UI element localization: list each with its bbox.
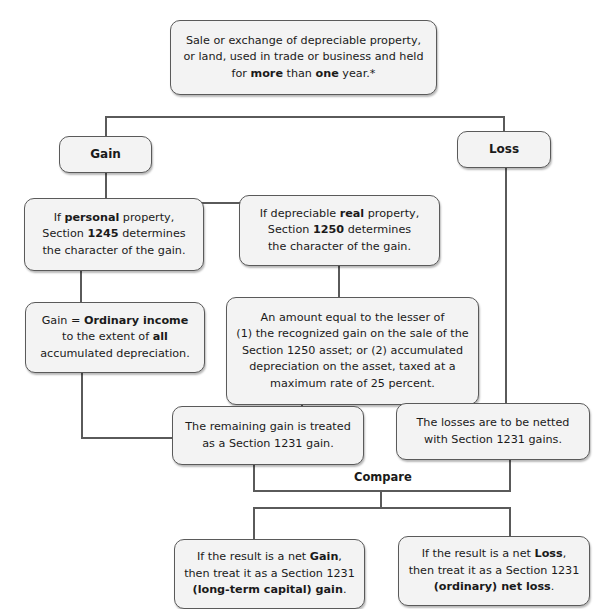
losses-netted-box: The losses are to be netted with Section… [396, 403, 590, 460]
connector-to-loss [503, 116, 505, 132]
gain-label: Gain [90, 146, 121, 163]
title-line-3-pre: for [232, 67, 251, 80]
losses-l2: with Section 1231 gains. [424, 433, 562, 446]
netgain-l2: then treat it as a Section 1231 [184, 567, 355, 580]
title-box: Sale or exchange of depreciable property… [170, 20, 437, 95]
netgain-l3-bold: (long-term capital) gain [193, 583, 343, 596]
title-more: more [251, 67, 283, 80]
title-one: one [316, 67, 339, 80]
connector-ordinary-to-remaining [81, 437, 173, 439]
remaining-l2: as a Section 1231 gain. [202, 437, 334, 450]
title-line-1: Sale or exchange of depreciable property… [186, 34, 421, 47]
real-l1-bold: real [340, 207, 365, 220]
netloss-l1-bold: Loss [535, 547, 563, 560]
loss-box: Loss [457, 131, 551, 168]
remaining-l1: The remaining gain is treated [185, 420, 350, 433]
personal-l2-bold: 1245 [87, 227, 118, 240]
personal-l3: the character of the gain. [42, 244, 185, 257]
ordinary-l3: accumulated depreciation. [40, 347, 190, 360]
netloss-l2: then treat it as a Section 1231 [409, 564, 580, 577]
connector-to-net-gain [253, 507, 255, 541]
netgain-l1-bold: Gain [310, 550, 339, 563]
ordinary-l2-pre: to the extent of [62, 330, 153, 343]
real-l2-bold: 1250 [313, 223, 344, 236]
section-1250-amount-box: An amount equal to the lesser of (1) the… [226, 297, 479, 405]
s1250-l2: (1) the recognized gain on the sale of t… [236, 327, 468, 340]
netloss-l3-post: . [551, 580, 555, 593]
ordinary-l2-bold: all [153, 330, 168, 343]
remaining-gain-box: The remaining gain is treated as a Secti… [172, 406, 364, 465]
s1250-l1: An amount equal to the lesser of [261, 311, 445, 324]
real-l3: the character of the gain. [268, 240, 411, 253]
net-gain-box: If the result is a net Gain, then treat … [174, 539, 365, 609]
connector-gain-loss-split [105, 116, 505, 118]
connector-result-split [253, 507, 511, 509]
connector-losses-down [509, 459, 511, 492]
netloss-l1-post: , [563, 547, 567, 560]
ordinary-income-box: Gain = Ordinary income to the extent of … [25, 302, 205, 373]
title-line-3-mid: than [283, 67, 316, 80]
connector-to-net-loss [509, 507, 511, 537]
gain-box: Gain [59, 136, 152, 173]
netgain-l1-post: , [338, 550, 342, 563]
personal-l1-post: property, [119, 211, 174, 224]
compare-label: Compare [354, 470, 412, 484]
netloss-l1-pre: If the result is a net [422, 547, 535, 560]
real-l1-post: property, [364, 207, 419, 220]
s1250-l5: maximum rate of 25 percent. [270, 377, 435, 390]
netgain-l3-post: . [343, 583, 347, 596]
personal-l2-pre: Section [42, 227, 87, 240]
connector-ordinary-down [81, 372, 83, 439]
real-property-box: If depreciable real property, Section 12… [239, 195, 440, 266]
losses-l1: The losses are to be netted [417, 416, 570, 429]
personal-l2-post: determines [119, 227, 186, 240]
connector-personal-to-ordinary [80, 270, 82, 304]
personal-l1-pre: If [54, 211, 65, 224]
connector-remaining-down [253, 464, 255, 492]
connector-to-gain [105, 116, 107, 137]
netgain-l1-pre: If the result is a net [197, 550, 310, 563]
ordinary-l1-pre: Gain = [42, 314, 84, 327]
s1250-l3: Section 1250 asset; or (2) accumulated [242, 344, 463, 357]
real-l1-pre: If depreciable [260, 207, 340, 220]
connector-real-to-1250 [338, 265, 340, 299]
connector-compare-join [253, 490, 511, 492]
net-loss-box: If the result is a net Loss, then treat … [398, 536, 590, 606]
personal-property-box: If personal property, Section 1245 deter… [24, 198, 204, 271]
personal-l1-bold: personal [64, 211, 119, 224]
real-l2-post: determines [344, 223, 411, 236]
s1250-l4: depreciation on the asset, taxed at a [249, 360, 455, 373]
ordinary-l1-bold: Ordinary income [84, 314, 188, 327]
title-line-2: or land, used in trade or business and h… [184, 50, 424, 63]
connector-loss-down [505, 167, 507, 404]
netloss-l3-bold: (ordinary) net loss [434, 580, 551, 593]
real-l2-pre: Section [268, 223, 313, 236]
loss-label: Loss [489, 141, 519, 158]
title-line-3-post: year.* [339, 67, 376, 80]
